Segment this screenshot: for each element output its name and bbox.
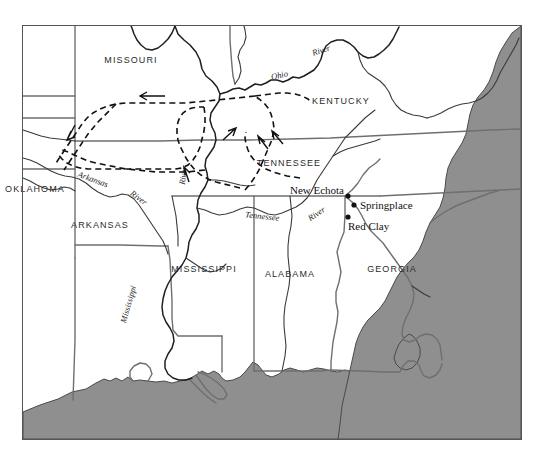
water-bodies <box>23 26 521 439</box>
border-alabama-georgia <box>331 196 345 370</box>
arrow-northwest-tennessee-2 <box>258 136 268 149</box>
river-label-arkansas: Arkansas <box>76 169 111 190</box>
state-label-arkansas: ARKANSAS <box>71 220 129 230</box>
city-label-red-clay: Red Clay <box>348 220 390 232</box>
city-markers <box>345 193 356 219</box>
chattahoochee-river <box>172 196 178 246</box>
city-dot-red-clay[interactable] <box>345 214 350 219</box>
arrow-southwest-arkansas <box>67 125 75 140</box>
louisiana-delta-coast <box>130 363 152 381</box>
arrow-northeast-tennessee <box>223 128 236 140</box>
mississippi-river <box>162 26 220 380</box>
ohio-river <box>220 27 399 94</box>
state-label-mississippi: MISSISSIPPI <box>171 264 237 274</box>
state-label-oklahoma: OKLAHOMA <box>5 184 65 194</box>
alabama-river <box>282 196 292 371</box>
trail-arkansas-route <box>58 107 205 169</box>
river-label-mississippi-river-word: River <box>177 165 190 186</box>
gulf-of-mexico-water <box>23 362 394 439</box>
state-label-georgia: GEORGIA <box>367 264 417 274</box>
border-texas-east <box>73 258 75 400</box>
border-arkansas-louisiana <box>75 245 168 246</box>
state-label-alabama: ALABAMA <box>265 269 315 279</box>
missouri-river <box>131 26 175 50</box>
city-dot-springplace[interactable] <box>351 202 356 207</box>
river-label-ohio-river-word: River <box>310 42 332 58</box>
river-label-ohio: Ohio <box>270 68 289 81</box>
cumberland-river <box>208 180 255 186</box>
border-louisiana-mississippi-east <box>168 246 222 336</box>
trail-northern-route <box>55 96 255 165</box>
state-label-tennessee: TENNESSEE <box>257 158 321 168</box>
border-tennessee-north-carolina <box>345 159 380 196</box>
trail-missouri-connector <box>64 104 116 170</box>
city-dot-new-echota[interactable] <box>345 193 350 198</box>
atlantic-ocean-water <box>338 26 521 439</box>
arrow-northwest-tennessee-1 <box>272 131 283 144</box>
map-svg: MISSOURI KENTUCKY TENNESSEE OKLAHOMA ARK… <box>0 0 544 453</box>
arrow-west-missouri <box>140 92 165 100</box>
state-label-missouri: MISSOURI <box>104 55 157 65</box>
river-label-tennessee: Tennessee <box>245 209 280 223</box>
border-missouri-arkansas <box>75 140 212 141</box>
trail-northern-route-east <box>255 93 312 103</box>
wabash-river <box>235 26 246 84</box>
river-label-mississippi: Mississippi <box>118 284 139 325</box>
kentucky-river-tributary <box>358 52 427 118</box>
city-label-new-echota: New Echota <box>290 184 344 196</box>
city-label-springplace: Springplace <box>360 199 413 211</box>
tennessee-river-upper-branch <box>333 139 380 156</box>
map-container: MISSOURI KENTUCKY TENNESSEE OKLAHOMA ARK… <box>0 0 544 453</box>
border-illinois-indiana <box>230 26 235 84</box>
arkansas-river <box>23 158 168 254</box>
river-label-tennessee-river-word: River <box>305 204 327 224</box>
state-label-kentucky: KENTUCKY <box>312 96 370 106</box>
